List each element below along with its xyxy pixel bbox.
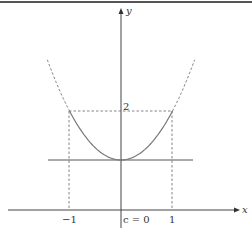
x-tick-label-1: 1 [169,214,175,225]
curve-right-dashed [173,60,195,111]
x-tick-label-c: c = 0 [123,214,150,225]
y-tick-label-2: 2 [123,101,129,112]
y-axis-label: y [125,5,132,16]
curve-left-dashed [47,60,69,111]
x-axis-label: x [242,204,248,215]
y-axis-arrow-icon [119,8,124,14]
x-tick-label-minus-1: −1 [62,214,77,225]
diagram-canvas: x y −1 c = 0 1 2 [0,0,252,234]
x-axis-arrow-icon [234,208,240,213]
